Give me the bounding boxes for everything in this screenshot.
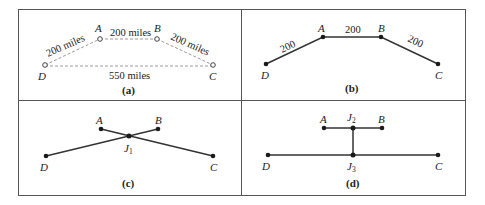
node-label-d: D (37, 70, 46, 82)
panel-b: A B C D 200 200 200 (b) (260, 22, 443, 95)
junction-j1 (127, 134, 132, 139)
node-c (211, 63, 216, 68)
node-a (322, 126, 327, 131)
node-label-b: B (154, 22, 161, 34)
node-c (211, 154, 216, 159)
node-label-c: C (435, 69, 443, 81)
junction-label-j3: J3 (347, 160, 356, 174)
junction-label-j1: J1 (124, 142, 133, 156)
node-c (436, 153, 441, 158)
node-b (379, 35, 384, 40)
edge-label-b-c: 200 miles (169, 31, 211, 58)
node-c (436, 62, 441, 67)
node-label-b: B (155, 114, 162, 126)
node-label-b: B (378, 22, 385, 34)
edge-label-b-c: 200 (406, 33, 425, 50)
node-label-d: D (39, 161, 48, 173)
node-label-c: C (435, 160, 443, 172)
edge-d-b (46, 129, 158, 156)
node-label-c: C (210, 161, 218, 173)
junction-j3 (351, 153, 356, 158)
caption-d: (d) (346, 177, 360, 190)
node-b (155, 37, 160, 42)
node-a (321, 35, 326, 40)
edge-label-d-c: 550 miles (109, 70, 150, 81)
caption-a: (a) (122, 84, 135, 97)
junction-label-j2: J2 (347, 111, 356, 125)
panel-grid-frame (19, 10, 466, 196)
edge-label-a-b: 200 miles (110, 27, 151, 38)
node-label-d: D (261, 160, 270, 172)
caption-c: (c) (122, 177, 135, 190)
caption-b: (b) (345, 82, 359, 95)
panel-a: A B C D 200 miles 200 miles 200 miles 55… (37, 22, 217, 97)
edge-label-d-a: 200 miles (44, 32, 86, 59)
node-b (380, 126, 385, 131)
node-d (44, 154, 49, 159)
node-a (99, 127, 104, 132)
node-a (98, 37, 103, 42)
node-d (266, 153, 271, 158)
node-label-a: A (317, 22, 325, 34)
edge-label-a-b: 200 (345, 24, 361, 35)
node-d (264, 62, 269, 67)
panel-d: A B J2 J3 D C (d) (261, 111, 443, 190)
node-label-d: D (260, 69, 269, 81)
node-label-b: B (378, 113, 385, 125)
edge-label-d-a: 200 (278, 38, 297, 55)
junction-j2 (351, 126, 356, 131)
panel-c: A B C D J1 (c) (39, 114, 218, 190)
node-label-a: A (95, 114, 103, 126)
edge-a-c (101, 129, 213, 156)
node-label-c: C (209, 70, 217, 82)
network-diagram-figure: A B C D 200 miles 200 miles 200 miles 55… (0, 0, 485, 205)
node-d (43, 63, 48, 68)
node-label-a: A (319, 113, 327, 125)
node-label-a: A (94, 22, 102, 34)
node-b (156, 127, 161, 132)
